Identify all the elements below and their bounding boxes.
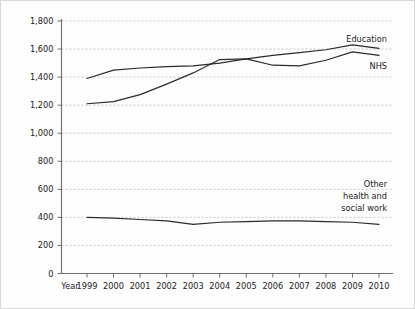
x-tick-label: 2003 xyxy=(183,281,204,291)
y-tick-label: 1,200 xyxy=(30,100,53,110)
x-tick-label: 2005 xyxy=(236,281,257,291)
y-tick-label: 600 xyxy=(38,184,54,194)
y-tick-label: 1,800 xyxy=(30,16,53,26)
series-line-other-health-and-social-work xyxy=(87,217,379,224)
series-label-other-line2: health and xyxy=(343,191,387,201)
x-tick-label: 2009 xyxy=(342,281,363,291)
series-line-nhs xyxy=(87,52,379,104)
x-tick-label: 2004 xyxy=(209,281,230,291)
series-label-education: Education xyxy=(346,34,387,44)
series-line-education xyxy=(87,45,379,79)
y-axis-ticks: 02004006008001,0001,2001,4001,6001,800 xyxy=(30,16,61,279)
y-tick-label: 400 xyxy=(38,212,54,222)
y-tick-label: 1,600 xyxy=(30,44,53,54)
x-axis-ticks: 1999200020012002200320042005200620072008… xyxy=(77,274,390,292)
series-label-other-line3: social work xyxy=(341,203,387,213)
y-tick-label: 1,000 xyxy=(30,128,53,138)
y-tick-label: 200 xyxy=(38,240,54,250)
line-chart-svg: 02004006008001,0001,2001,4001,6001,800 1… xyxy=(1,1,415,309)
y-tick-label: 1,400 xyxy=(30,72,53,82)
x-tick-label: 2000 xyxy=(103,281,124,291)
x-tick-label: 2008 xyxy=(315,281,336,291)
x-tick-label: 2001 xyxy=(130,281,151,291)
x-tick-label: 2007 xyxy=(289,281,310,291)
x-tick-label: 2006 xyxy=(262,281,283,291)
series-label-nhs: NHS xyxy=(370,61,387,71)
series-lines xyxy=(87,45,379,225)
x-tick-label: 2002 xyxy=(156,281,177,291)
y-tick-label: 0 xyxy=(48,269,53,279)
chart-figure: 02004006008001,0001,2001,4001,6001,800 1… xyxy=(0,0,415,309)
x-tick-label: 1999 xyxy=(77,281,98,291)
x-axis-title: Year xyxy=(60,281,79,291)
series-labels: EducationNHSOtherhealth andsocial work xyxy=(341,34,387,213)
y-tick-label: 800 xyxy=(38,156,54,166)
x-tick-label: 2010 xyxy=(369,281,390,291)
series-label-other-line1: Other xyxy=(364,179,388,189)
